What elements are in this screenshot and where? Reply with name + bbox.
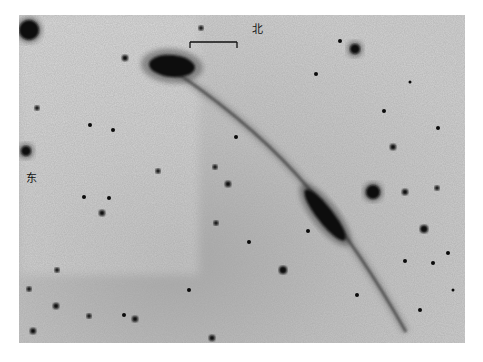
north-label: 北: [252, 24, 263, 35]
sky-image: [0, 0, 483, 362]
east-label: 东: [26, 173, 37, 184]
astronomical-image-frame: 北 东: [0, 0, 483, 362]
